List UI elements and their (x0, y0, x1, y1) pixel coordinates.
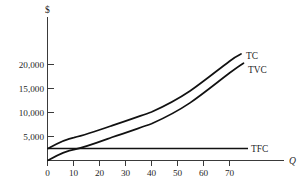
x-tick-label-10: 10 (69, 168, 79, 178)
x-tick-label-60: 60 (199, 168, 209, 178)
x-tick-label-70: 70 (225, 168, 235, 178)
x-axis-title: Q (289, 155, 296, 166)
x-tick-label-20: 20 (95, 168, 105, 178)
series-line-tc (48, 54, 241, 148)
series-label-tvc: TVC (248, 65, 267, 75)
y-tick-label-5000: 5,000 (23, 132, 44, 142)
x-tick-label-0: 0 (45, 168, 50, 178)
x-tick-label-50: 50 (173, 168, 183, 178)
y-tick-label-15000: 15,000 (19, 84, 45, 94)
x-tick-label-40: 40 (147, 168, 157, 178)
y-axis-title: $ (45, 4, 50, 15)
x-tick-label-30: 30 (121, 168, 131, 178)
series-label-tfc: TFC (251, 144, 268, 154)
cost-curves-chart: $ Q 5,000 10,000 15,000 20,000 0 10 20 3… (0, 0, 308, 190)
chart-plot-area: $ Q 5,000 10,000 15,000 20,000 0 10 20 3… (0, 0, 308, 190)
y-tick-label-20000: 20,000 (19, 60, 45, 70)
y-tick-label-10000: 10,000 (19, 108, 45, 118)
series-line-tvc (48, 63, 244, 160)
series-label-tc: TC (246, 51, 258, 61)
